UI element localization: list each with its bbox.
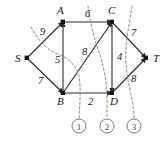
node-labels-group: S A C B D T <box>15 4 160 107</box>
edge-weight-D-T: 8 <box>131 73 137 84</box>
cut-marker-label-3: 3 <box>132 122 137 132</box>
edge-weight-B-C: 8 <box>82 46 88 57</box>
cut-curves-group <box>31 6 134 118</box>
edge-weight-B-D: 2 <box>88 96 94 107</box>
cut-markers-group: 1 2 3 <box>72 119 141 133</box>
node-label-T: T <box>153 52 160 64</box>
network-flow-diagram: S A C B D T 9 7 6 5 8 4 2 7 8 1 2 3 <box>0 0 165 142</box>
edge-weight-C-T: 7 <box>131 27 137 38</box>
node-label-B: B <box>57 95 64 107</box>
edge-weight-B-A: 5 <box>55 54 60 65</box>
figure-container: S A C B D T 9 7 6 5 8 4 2 7 8 1 2 3 <box>0 0 165 142</box>
edge-weight-C-D: 4 <box>117 51 123 62</box>
node-label-D: D <box>109 95 118 107</box>
cut-curve-3 <box>126 6 134 118</box>
edge-D-T <box>112 58 146 93</box>
cut-marker-label-1: 1 <box>77 122 82 132</box>
node-dot-C <box>110 20 114 24</box>
cut-marker-label-2: 2 <box>105 122 110 132</box>
node-dot-T <box>144 56 148 60</box>
edge-weight-A-C: 6 <box>85 8 91 19</box>
cut-curve-1 <box>31 27 80 118</box>
node-label-S: S <box>15 52 21 64</box>
node-label-A: A <box>56 4 64 16</box>
node-dot-S <box>25 56 29 60</box>
edge-weight-S-A: 9 <box>40 26 46 37</box>
node-dot-A <box>61 20 65 24</box>
edge-weight-S-B: 7 <box>38 75 44 86</box>
node-label-C: C <box>108 4 116 16</box>
